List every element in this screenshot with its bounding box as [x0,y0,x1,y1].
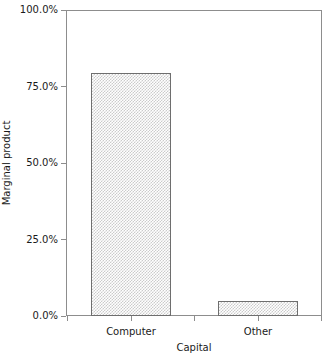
y-tick-mark [61,10,66,11]
x-axis-title: Capital [66,341,322,354]
x-axis-boundary-tick-2 [321,316,322,321]
bar-other[interactable] [218,301,298,316]
y-tick-mark [61,239,66,240]
x-axis-center-tick-other [258,316,259,321]
bars-layer [67,11,321,316]
y-tick-label: 0.0% [33,309,58,322]
x-tick-label-other: Other [244,325,272,338]
y-tick-mark [61,316,66,317]
y-tick-mark [61,86,66,87]
y-tick-label: 100.0% [20,3,58,16]
y-axis-title: Marginal product [0,10,14,316]
bar-computer[interactable] [91,73,171,316]
y-tick-label: 75.0% [26,80,58,93]
x-tick-label-computer: Computer [106,325,156,338]
x-axis-center-tick-computer [131,316,132,321]
x-axis-boundary-tick-1 [194,316,195,321]
y-tick-label: 50.0% [26,156,58,169]
y-tick-label: 25.0% [26,233,58,246]
y-tick-mark [61,163,66,164]
x-axis-boundary-tick-0 [67,316,68,321]
bar-chart: 0.0% 25.0% 50.0% 75.0% 100.0% Computer O… [0,0,333,358]
